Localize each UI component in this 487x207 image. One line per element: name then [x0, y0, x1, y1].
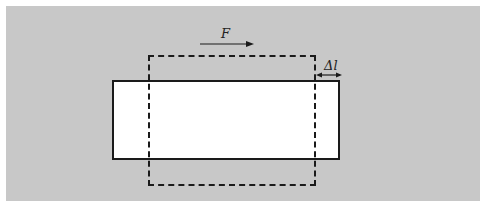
- force-arrow-icon: [200, 41, 254, 47]
- double-arrow-icon: [316, 73, 342, 78]
- force-label: F: [221, 26, 230, 41]
- elongation-label: Δl: [324, 58, 338, 73]
- arrows-layer: [0, 0, 487, 207]
